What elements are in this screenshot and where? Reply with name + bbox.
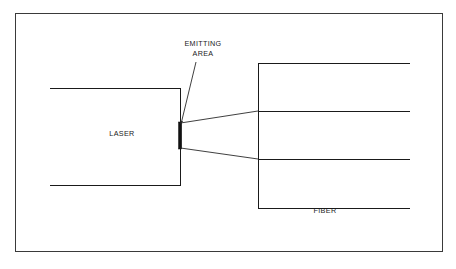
- laser-label: LASER: [109, 129, 134, 138]
- emitting-area-label-line1: EMITTING: [184, 39, 221, 48]
- diagram-canvas: LASER EMITTING AREA FIBER: [0, 0, 456, 269]
- emitting-area-label-line2: AREA: [193, 49, 214, 58]
- laser-fiber-diagram: LASER EMITTING AREA FIBER: [0, 0, 456, 269]
- emitting-area-bar: [179, 122, 182, 149]
- lower-beam-ray: [181, 148, 259, 159]
- fiber-cladding-outline: [258, 63, 410, 208]
- emitting-area-leader-line: [181, 62, 196, 124]
- fiber-label: FIBER: [314, 206, 337, 215]
- outer-border-frame: [16, 14, 443, 252]
- upper-beam-ray: [181, 111, 259, 123]
